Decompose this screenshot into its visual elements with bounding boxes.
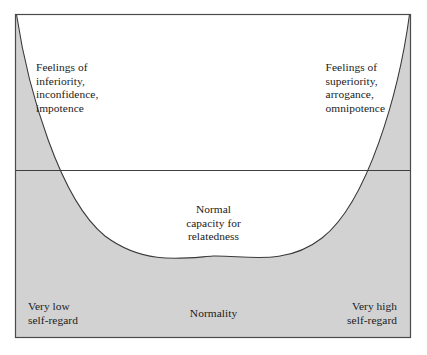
figure-root: Feelings of inferiority, inconfidence, i…: [0, 0, 427, 355]
label-very-high-self-regard: Very high self-regard: [347, 300, 397, 327]
label-feelings-of-superiority: Feelings of superiority, arrogance, omni…: [326, 61, 385, 115]
label-feelings-of-inferiority: Feelings of inferiority, inconfidence, i…: [36, 61, 98, 115]
label-normal-capacity-for-relatedness: Normal capacity for relatedness: [0, 203, 427, 244]
